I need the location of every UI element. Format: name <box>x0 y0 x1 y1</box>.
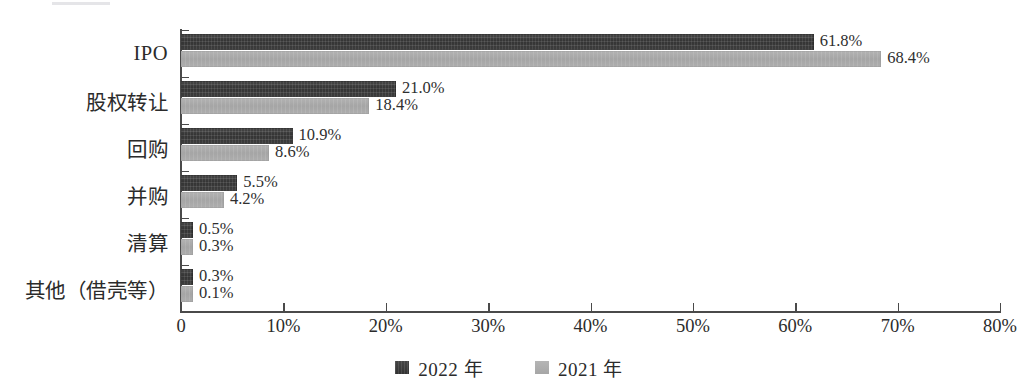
bar <box>181 81 396 97</box>
dark-square-swatch <box>395 361 409 374</box>
x-axis-tick-label: 80% <box>983 316 1017 337</box>
bar-value-label: 0.3% <box>199 238 233 254</box>
bar-group: 21.0%18.4% <box>181 77 1000 124</box>
bar-group: 10.9%8.6% <box>181 124 1000 171</box>
bar <box>181 51 881 67</box>
legend-item[interactable]: 2022 年 <box>395 354 483 381</box>
gray-square-swatch <box>535 361 549 374</box>
category-label: 回购 <box>0 124 174 171</box>
bar-value-label: 0.1% <box>199 285 233 301</box>
x-axis-tick-label: 50% <box>676 316 710 337</box>
bar <box>181 239 193 255</box>
clipped-caption <box>0 381 1018 387</box>
bar <box>181 222 193 238</box>
legend-item[interactable]: 2021 年 <box>535 354 623 381</box>
scan-artifact-speck <box>52 2 110 5</box>
bar <box>181 286 193 302</box>
bar <box>181 175 237 191</box>
plot-area: 61.8%68.4%21.0%18.4%10.9%8.6%5.5%4.2%0.5… <box>181 30 1000 312</box>
x-axis-tick-label: 0 <box>176 316 185 337</box>
bar-group: 5.5%4.2% <box>181 171 1000 218</box>
bar <box>181 145 269 161</box>
chart-legend: 2022 年2021 年 <box>0 354 1018 381</box>
bar <box>181 269 193 285</box>
x-axis-tick-label: 40% <box>574 316 608 337</box>
bar-group: 0.3%0.1% <box>181 265 1000 312</box>
bar <box>181 192 224 208</box>
bar-value-label: 5.5% <box>243 174 277 190</box>
bar-value-label: 21.0% <box>402 80 445 96</box>
x-axis-tick-label: 20% <box>369 316 403 337</box>
bar-value-label: 4.2% <box>230 191 264 207</box>
x-axis-tick-label: 60% <box>778 316 812 337</box>
bar-value-label: 0.5% <box>199 221 233 237</box>
bar-group: 0.5%0.3% <box>181 218 1000 265</box>
bar-chart-figure: IPO股权转让回购并购清算其他（借壳等） 61.8%68.4%21.0%18.4… <box>0 0 1018 387</box>
bar-group: 61.8%68.4% <box>181 30 1000 77</box>
legend-label: 2022 年 <box>418 354 483 381</box>
bar-value-label: 8.6% <box>275 144 309 160</box>
bar-value-label: 68.4% <box>887 50 930 66</box>
x-axis-tick-label: 10% <box>266 316 300 337</box>
category-label: 其他（借壳等） <box>0 265 174 312</box>
bar-value-label: 61.8% <box>820 33 863 49</box>
bar <box>181 34 814 50</box>
bar-value-label: 0.3% <box>199 268 233 284</box>
x-axis-tick-label: 70% <box>881 316 915 337</box>
category-label: 股权转让 <box>0 77 174 124</box>
bar <box>181 98 369 114</box>
category-label: 清算 <box>0 218 174 265</box>
x-axis-tick <box>1000 303 1001 311</box>
category-label: IPO <box>0 30 174 77</box>
legend-label: 2021 年 <box>558 354 623 381</box>
category-label: 并购 <box>0 171 174 218</box>
bar-value-label: 10.9% <box>299 127 342 143</box>
x-axis-tick-label: 30% <box>471 316 505 337</box>
bar-value-label: 18.4% <box>375 97 418 113</box>
y-axis-tick <box>180 312 189 313</box>
